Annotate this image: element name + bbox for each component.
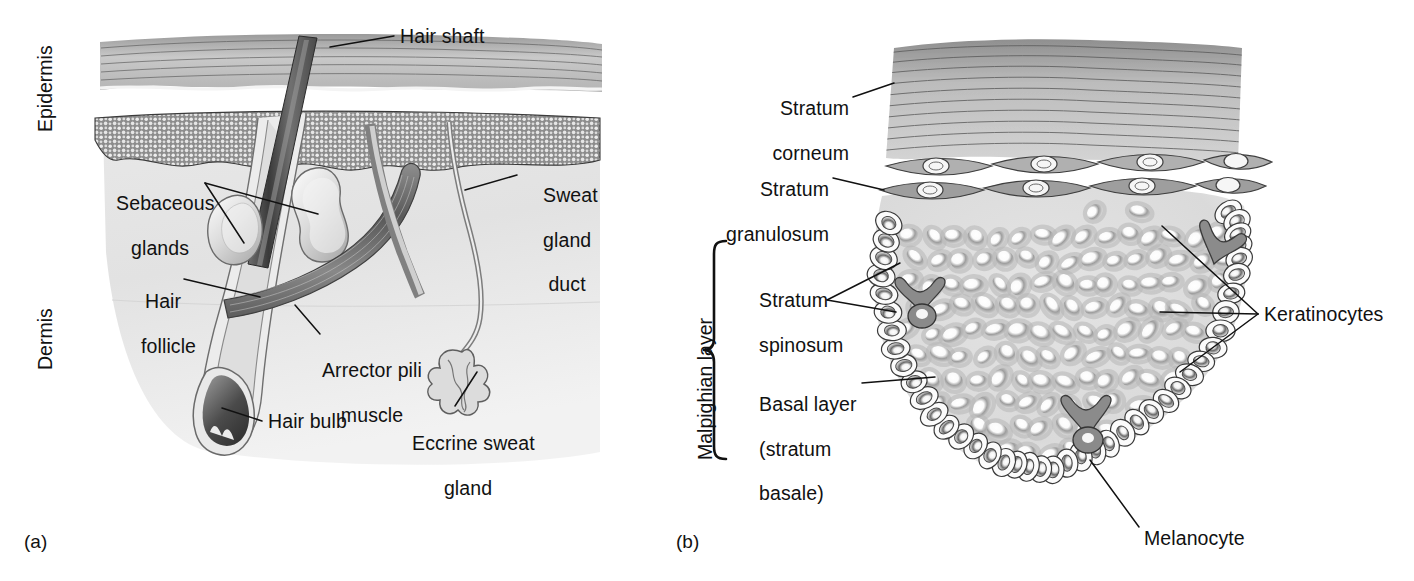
label-stratum-granulosum-line2: granulosum: [726, 223, 829, 245]
label-sebaceous-glands-line2: glands: [131, 237, 189, 259]
label-sebaceous-glands: Sebaceous glands: [94, 170, 204, 281]
label-basal-layer-line1: Basal layer: [759, 393, 857, 415]
label-eccrine-line2: gland: [444, 477, 492, 499]
caption-panel-b: (b): [676, 531, 699, 553]
label-hair-follicle-line1: Hair: [145, 290, 181, 312]
label-stratum-corneum-line1: Stratum: [780, 97, 849, 119]
label-malpighian-layer: Malpighian layer: [694, 318, 717, 460]
stratum-corneum-layer: [878, 39, 1250, 162]
label-hair-follicle-line2: follicle: [141, 335, 196, 357]
label-hair-bulb: Hair bulb: [268, 410, 347, 432]
label-eccrine-sweat-gland: Eccrine sweat gland: [390, 410, 524, 521]
epidermis-corneum-band: [100, 34, 602, 92]
label-stratum-granulosum: Stratum granulosum: [695, 156, 829, 267]
label-sweat-gland-duct-line1: Sweat: [543, 184, 598, 206]
panel-a-skin-cross-section: [0, 0, 700, 581]
label-stratum-granulosum-line1: Stratum: [760, 178, 829, 200]
panel-a-artwork: [0, 0, 700, 581]
region-label-epidermis: Epidermis: [34, 45, 57, 132]
stratum-granulosum-layer: [880, 154, 1272, 200]
label-eccrine-line1: Eccrine sweat: [412, 432, 535, 454]
label-hair-follicle: Hair follicle: [119, 268, 185, 379]
label-stratum-spinosum-line1: Stratum: [759, 289, 828, 311]
label-hair-shaft: Hair shaft: [400, 25, 484, 47]
region-label-dermis: Dermis: [34, 308, 57, 370]
label-basal-layer-line3: basale): [759, 482, 824, 504]
label-stratum-spinosum: Stratum spinosum: [737, 267, 847, 378]
label-arrector-pili-line1: Arrector pili: [322, 359, 422, 381]
label-sweat-gland-duct-line3: duct: [548, 273, 585, 295]
skin-anatomy-figure: Epidermis Dermis Hair shaft Sebaceous gl…: [0, 0, 1414, 581]
label-melanocyte: Melanocyte: [1144, 527, 1245, 549]
label-stratum-spinosum-line2: spinosum: [759, 334, 843, 356]
label-basal-layer-line2: (stratum: [759, 438, 831, 460]
label-keratinocytes: Keratinocytes: [1264, 303, 1383, 325]
label-sweat-gland-duct-line2: gland: [543, 229, 591, 251]
label-sweat-gland-duct: Sweat gland duct: [521, 162, 591, 318]
label-sebaceous-glands-line1: Sebaceous: [116, 192, 214, 214]
caption-panel-a: (a): [24, 531, 47, 553]
label-basal-layer: Basal layer (stratum basale): [737, 371, 867, 527]
